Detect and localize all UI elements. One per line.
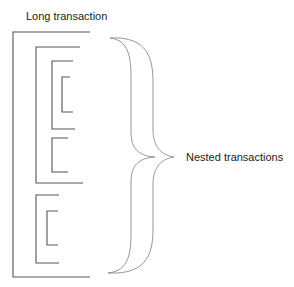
- bracket-nested-transaction-1-1-1: [62, 77, 73, 112]
- brace-inner-stroke: [108, 38, 155, 273]
- bracket-nested-transaction-1-2: [52, 138, 68, 172]
- transaction-nesting-diagram: [0, 0, 294, 287]
- brace-outer-stroke: [108, 38, 174, 273]
- curly-brace-icon: [108, 38, 174, 273]
- bracket-nested-transaction-1-1: [52, 61, 75, 129]
- bracket-nested-transaction-2-1: [47, 211, 58, 245]
- bracket-nested-transaction-1: [36, 47, 83, 183]
- brackets: [13, 32, 90, 277]
